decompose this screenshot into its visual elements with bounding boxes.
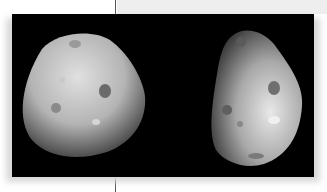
right-moon xyxy=(211,30,302,165)
header-band xyxy=(117,0,327,14)
moon-illustrations xyxy=(12,14,314,177)
deimos-photo xyxy=(12,14,314,177)
left-moon xyxy=(23,34,146,157)
column-divider-top xyxy=(115,0,116,14)
